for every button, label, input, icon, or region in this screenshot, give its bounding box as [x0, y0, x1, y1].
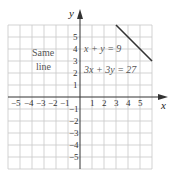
graph: x y −5 −4 −3 −2 −1 1 2 3 4 5 5 4 3 2 1 −… [0, 0, 176, 175]
svg-text:5: 5 [73, 32, 78, 42]
equation-2-label: 3x + 3y = 27 [83, 64, 137, 75]
equation-1-label: x + y = 9 [83, 43, 121, 54]
svg-text:2: 2 [102, 98, 107, 108]
svg-text:−3: −3 [36, 98, 46, 108]
svg-text:−2: −2 [69, 116, 79, 126]
x-axis-label: x [160, 99, 166, 111]
svg-text:3: 3 [73, 56, 78, 66]
line-x-plus-y-equals-9 [116, 25, 152, 61]
svg-text:−3: −3 [69, 128, 79, 138]
same-line-note-1: Same [32, 47, 55, 58]
y-axis-arrow-icon [77, 9, 83, 19]
svg-text:−1: −1 [69, 104, 79, 114]
svg-text:4: 4 [126, 98, 131, 108]
svg-text:−5: −5 [11, 98, 21, 108]
svg-text:1: 1 [90, 98, 95, 108]
same-line-note-2: line [36, 61, 52, 72]
svg-text:2: 2 [73, 68, 78, 78]
svg-text:4: 4 [73, 44, 78, 54]
svg-text:5: 5 [138, 98, 143, 108]
svg-text:−4: −4 [69, 140, 79, 150]
svg-text:1: 1 [73, 80, 78, 90]
y-axis-label: y [68, 7, 74, 19]
svg-text:−5: −5 [69, 152, 79, 162]
svg-text:−2: −2 [48, 98, 58, 108]
svg-text:3: 3 [114, 98, 119, 108]
svg-text:−4: −4 [24, 98, 34, 108]
